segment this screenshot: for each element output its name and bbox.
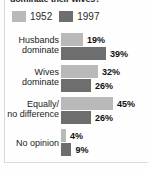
legend-swatch-1997 [59, 11, 73, 22]
bar-row: 32% [61, 65, 120, 78]
bar-value-label: 9% [75, 145, 88, 155]
bar-row: 4% [61, 129, 83, 142]
bar-value-label: 19% [87, 35, 105, 45]
bar-group: No opinion4%9% [0, 129, 151, 157]
bar-1952 [61, 129, 66, 142]
category-label: No opinion [2, 138, 59, 148]
category-label: Equally/no difference [2, 99, 59, 119]
chart-legend: 1952 1997 [12, 11, 100, 22]
bar-chart: dominate their wives? 1952 1997 Husbands… [0, 0, 151, 170]
bar-group: Husbandsdominate19%39% [0, 33, 151, 61]
bar-1952 [61, 65, 98, 78]
legend-label-1952: 1952 [30, 11, 52, 22]
bar-value-label: 32% [102, 67, 120, 77]
bar-row: 45% [61, 97, 135, 110]
bar-1997 [61, 47, 106, 60]
bar-1997 [61, 111, 91, 124]
bar-group: Equally/no difference45%26% [0, 97, 151, 125]
legend-swatch-1952 [12, 11, 26, 22]
bar-row: 19% [61, 33, 105, 46]
bar-value-label: 26% [95, 113, 113, 123]
bar-value-label: 4% [70, 131, 83, 141]
bar-row: 26% [61, 79, 113, 92]
bar-1997 [61, 79, 91, 92]
bar-row: 9% [61, 143, 88, 156]
bar-1952 [61, 97, 113, 110]
bar-row: 26% [61, 111, 113, 124]
bar-row: 39% [61, 47, 128, 60]
legend-item-1952: 1952 [12, 11, 52, 22]
bar-1997 [61, 143, 71, 156]
plot-area: Husbandsdominate19%39%Wivesdominate32%26… [0, 33, 151, 163]
chart-title: dominate their wives? [10, 0, 140, 5]
bar-value-label: 39% [110, 49, 128, 59]
bar-value-label: 45% [117, 99, 135, 109]
bar-value-label: 26% [95, 81, 113, 91]
bar-group: Wivesdominate32%26% [0, 65, 151, 93]
category-label: Husbandsdominate [2, 35, 59, 55]
category-label: Wivesdominate [2, 67, 59, 87]
legend-item-1997: 1997 [59, 11, 99, 22]
bar-1952 [61, 33, 83, 46]
legend-label-1997: 1997 [77, 11, 99, 22]
